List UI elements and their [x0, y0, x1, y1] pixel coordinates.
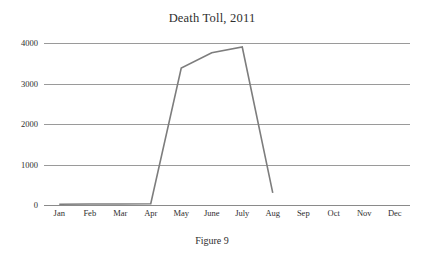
x-tick-label-oct: Oct [328, 208, 340, 218]
series-line-death-toll [59, 47, 273, 204]
x-axis: JanFebMarAprMayJuneJulyAugSepOctNovDec [44, 208, 410, 222]
figure-caption: Figure 9 [0, 235, 424, 246]
y-tick-label-1000: 1000 [0, 160, 38, 170]
x-tick-label-jan: Jan [54, 208, 65, 218]
y-tick-label-2000: 2000 [0, 119, 38, 129]
x-tick-label-july: July [235, 208, 249, 218]
figure-container: Death Toll, 2011 01000200030004000 JanFe… [0, 0, 424, 260]
x-tick-label-feb: Feb [83, 208, 96, 218]
x-tick-label-mar: Mar [113, 208, 127, 218]
x-tick-label-sep: Sep [297, 208, 310, 218]
x-tick-label-dec: Dec [388, 208, 402, 218]
gridline-0 [44, 205, 410, 206]
x-tick-label-nov: Nov [357, 208, 372, 218]
x-tick-label-may: May [173, 208, 189, 218]
y-tick-label-4000: 4000 [0, 38, 38, 48]
x-tick-label-june: June [204, 208, 220, 218]
chart-title: Death Toll, 2011 [0, 11, 424, 26]
x-tick-label-aug: Aug [265, 208, 280, 218]
y-tick-label-3000: 3000 [0, 79, 38, 89]
series-line-chart [44, 43, 410, 205]
x-tick-label-apr: Apr [144, 208, 157, 218]
y-tick-label-0: 0 [0, 200, 38, 210]
